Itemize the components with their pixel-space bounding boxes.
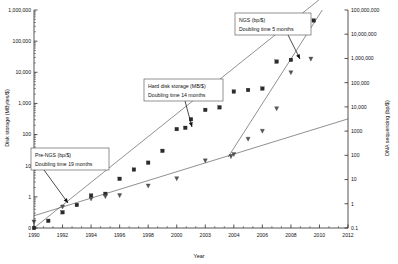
data-point-triangle [118, 194, 122, 198]
y-right-tick-label: 100,000,000 [351, 7, 379, 13]
annotation-line: NGS (bp/$) [239, 17, 266, 23]
data-point-square [46, 219, 50, 223]
x-tick-label: 2008 [285, 232, 296, 238]
y-right-tick-label: 100 [351, 152, 360, 158]
x-tick-label: 2012 [342, 232, 353, 238]
y-axis-left-title: Disk storage (MBytes/$) [4, 89, 10, 147]
data-point-triangle [246, 137, 250, 141]
y-right-tick-label: 1000 [351, 128, 362, 134]
data-point-square [289, 58, 293, 62]
y-right-tick-label: 10 [351, 176, 357, 182]
annotations-group: Pre-NGS (bp/$)Doubling time 19 monthsHar… [31, 13, 311, 203]
data-point-square [261, 87, 265, 91]
data-point-triangle [146, 184, 150, 188]
x-tick-label: 1990 [28, 232, 39, 238]
y-left-tick-label: 0 [28, 225, 31, 231]
x-tick-label: 2010 [314, 232, 325, 238]
data-point-triangle [275, 107, 279, 111]
data-point-square [218, 106, 222, 110]
y-axis-right-title: DNA sequencing (bp/$) [384, 100, 390, 156]
x-tick-label: 1996 [114, 232, 125, 238]
y-right-tick-label: 1,000,000 [351, 55, 374, 61]
y-left-tick-label: 1,000,000 [8, 7, 31, 13]
data-point-triangle [289, 71, 293, 75]
data-point-square [183, 126, 187, 130]
x-tick-label: 2004 [228, 232, 239, 238]
x-tick-label: 1994 [85, 232, 96, 238]
data-point-triangle [103, 195, 107, 199]
x-tick-label: 1992 [57, 232, 68, 238]
annotation-line: Pre-NGS (bp/$) [35, 152, 71, 158]
y-right-tick-label: 0.1 [351, 225, 358, 231]
annotation-line: Doubling time 19 months [35, 161, 93, 167]
tick-labels-group: 01101001,00010,000100,0001,000,0000.1110… [8, 7, 379, 238]
data-point-square [161, 149, 165, 153]
data-point-square [275, 60, 279, 64]
annotation-ngs: NGS (bp/$)Doubling time 5 months [235, 13, 311, 59]
y-left-tick-label: 1 [28, 194, 31, 200]
y-left-tick-label: 100,000 [13, 38, 32, 44]
data-point-square [246, 88, 250, 92]
annotation-line: Hard disk storage (MB/$) [148, 83, 206, 89]
data-point-triangle [309, 57, 313, 61]
data-point-triangle [260, 129, 264, 133]
annotation-line: Doubling time 5 months [239, 26, 294, 32]
data-point-triangle [229, 155, 233, 159]
y-right-tick-label: 10,000 [351, 104, 367, 110]
data-point-square [61, 210, 65, 214]
y-left-tick-label: 10,000 [15, 69, 31, 75]
data-point-square [118, 177, 122, 181]
y-left-tick-label: 100 [23, 131, 32, 137]
data-point-square [132, 168, 136, 172]
y-right-tick-label: 100,000 [351, 80, 370, 86]
y-left-tick-label: 1,000 [18, 100, 31, 106]
data-point-square [75, 203, 79, 207]
x-tick-label: 2003 [200, 232, 211, 238]
annotation-hard-disk: Hard disk storage (MB/$)Doubling time 14… [144, 79, 223, 127]
data-point-square [312, 19, 316, 23]
x-tick-label: 2006 [257, 232, 268, 238]
annotation-pre-ngs: Pre-NGS (bp/$)Doubling time 19 months [31, 148, 109, 203]
data-point-square [203, 108, 207, 112]
x-tick-label: 1998 [143, 232, 154, 238]
x-tick-label: 2000 [171, 232, 182, 238]
chart-container: 01101001,00010,000100,0001,000,0000.1110… [0, 0, 398, 264]
y-right-tick-label: 1 [351, 201, 354, 207]
data-point-triangle [60, 205, 64, 209]
disk-storage-vs-dna-sequencing-chart: 01101001,00010,000100,0001,000,0000.1110… [0, 0, 398, 264]
data-point-triangle [175, 177, 179, 181]
data-point-square [146, 161, 150, 165]
y-right-tick-label: 10,000,000 [351, 31, 377, 37]
x-axis-title: Year [194, 253, 205, 259]
annotation-line: Doubling time 14 months [148, 92, 206, 98]
data-point-square [232, 90, 236, 94]
data-point-square [175, 127, 179, 131]
disk-storage-markers [32, 19, 315, 230]
y-left-tick-label: 10 [25, 163, 31, 169]
